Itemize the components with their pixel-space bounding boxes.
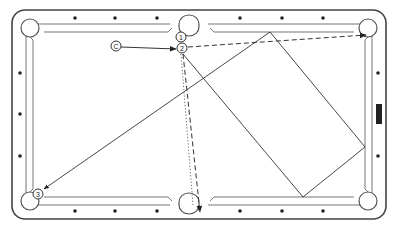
pocket-bottom-right bbox=[359, 192, 377, 210]
pocket-top-left bbox=[21, 19, 39, 37]
rail-marker bbox=[376, 104, 382, 124]
table-outer-frame bbox=[12, 10, 386, 219]
ball-3: 3 bbox=[33, 189, 43, 199]
pocket-top-right bbox=[359, 19, 377, 37]
svg-text:1: 1 bbox=[179, 34, 183, 41]
billiards-diagram: C 1 2 3 bbox=[0, 0, 397, 229]
table-svg: C 1 2 3 bbox=[0, 0, 397, 229]
svg-text:2: 2 bbox=[180, 45, 184, 52]
svg-text:C: C bbox=[113, 43, 118, 50]
ball-2: 2 bbox=[177, 43, 187, 53]
ball-cue: C bbox=[111, 41, 121, 51]
pocket-bottom-side bbox=[179, 193, 199, 214]
svg-text:3: 3 bbox=[36, 191, 40, 198]
ball-1: 1 bbox=[176, 32, 186, 42]
